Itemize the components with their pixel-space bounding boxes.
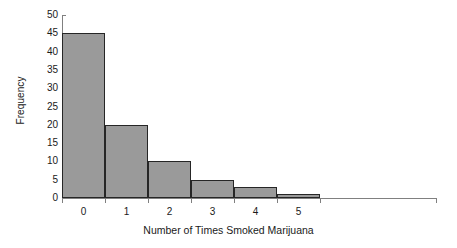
x-tick-mark xyxy=(191,198,192,203)
x-tick-label-4: 4 xyxy=(241,206,271,218)
x-axis-title-label: Number of Times Smoked Marijuana xyxy=(143,224,313,236)
x-tick-label-5: 5 xyxy=(284,206,314,218)
y-tick-label: 30 xyxy=(36,82,58,93)
y-tick-label: 20 xyxy=(36,119,58,130)
y-axis-title: Frequency xyxy=(8,0,32,200)
y-axis-title-label: Frequency xyxy=(15,76,26,124)
x-tick-mark xyxy=(62,198,63,203)
y-tick-label: 35 xyxy=(36,64,58,75)
x-tick-label-0: 0 xyxy=(69,206,99,218)
y-tick-label: 15 xyxy=(36,137,58,148)
bar-0 xyxy=(62,33,105,198)
x-tick-mark xyxy=(320,198,321,203)
bar-5 xyxy=(277,194,320,198)
y-tick-label: 45 xyxy=(36,27,58,38)
x-axis-title: Number of Times Smoked Marijuana xyxy=(0,224,457,236)
x-tick-mark xyxy=(105,198,106,203)
y-tick-label: 50 xyxy=(36,9,58,20)
x-axis-line xyxy=(62,198,436,199)
x-tick-mark xyxy=(277,198,278,203)
y-tick-mark xyxy=(62,15,66,16)
histogram-chart: Frequency 05101520253035404550 012345 Nu… xyxy=(0,0,457,248)
bar-4 xyxy=(234,187,277,198)
y-tick-label: 10 xyxy=(36,155,58,166)
bar-3 xyxy=(191,180,234,198)
x-tick-mark xyxy=(234,198,235,203)
y-tick-label: 0 xyxy=(36,192,58,203)
bar-1 xyxy=(105,125,148,198)
y-tick-label: 40 xyxy=(36,46,58,57)
bar-2 xyxy=(148,161,191,198)
x-tick-label-1: 1 xyxy=(112,206,142,218)
y-tick-label: 25 xyxy=(36,101,58,112)
x-tick-mark xyxy=(436,198,437,203)
x-tick-label-3: 3 xyxy=(198,206,228,218)
y-tick-label: 5 xyxy=(36,174,58,185)
x-tick-mark xyxy=(148,198,149,203)
x-tick-label-2: 2 xyxy=(155,206,185,218)
